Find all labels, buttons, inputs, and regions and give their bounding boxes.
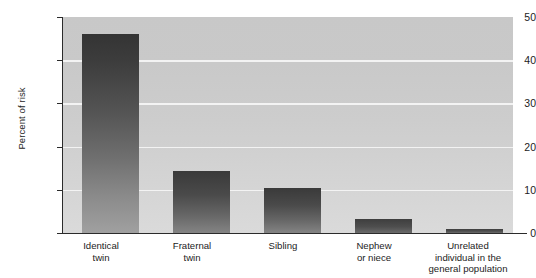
y-axis-title: Percent of risk xyxy=(16,59,27,179)
bar-chart: Percent of risk 50 40 30 20 10 0 Identic… xyxy=(0,0,536,278)
x-label-line: general population xyxy=(406,263,530,275)
bar-fraternal-twin xyxy=(173,171,230,233)
x-label-line: Unrelated xyxy=(406,240,530,252)
x-label-line: twin xyxy=(133,252,251,264)
x-label-line: individual in the xyxy=(406,252,530,264)
bar-sibling xyxy=(264,188,321,233)
bar-nephew-or-niece xyxy=(355,219,412,233)
plot-area xyxy=(63,17,513,233)
bar-identical-twin xyxy=(82,34,139,233)
x-axis-line xyxy=(62,233,527,234)
x-label-unrelated: Unrelated individual in the general popu… xyxy=(406,240,530,275)
